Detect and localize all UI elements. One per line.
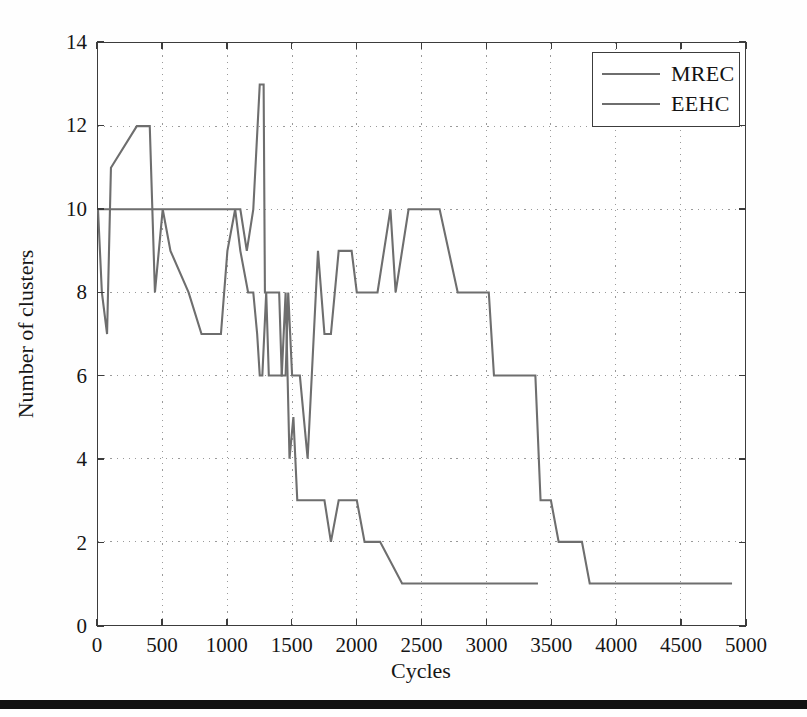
y-tick-label-6: 6 [39,365,87,386]
x-tick-label-1000: 1000 [206,635,248,656]
y-tick-label-0: 0 [39,616,87,637]
x-tick-label-3500: 3500 [530,635,572,656]
y-tick-label-12: 12 [39,115,87,136]
legend: MREC EEHC [592,52,740,127]
legend-label-eehc: EEHC [671,91,730,117]
legend-label-mrec: MREC [671,61,735,87]
x-axis-title: Cycles [391,658,451,684]
y-tick-label-4: 4 [39,449,87,470]
x-tick-label-5000: 5000 [725,635,767,656]
legend-line-swatch-eehc [602,103,660,105]
scan-artifact-bar [0,700,807,709]
y-tick-label-2: 2 [39,532,87,553]
y-axis-title: Number of clusters [13,250,39,419]
legend-line-swatch-mrec [602,73,660,75]
x-tick-label-4500: 4500 [660,635,702,656]
y-tick-label-10: 10 [39,198,87,219]
x-tick-label-1500: 1500 [271,635,313,656]
x-tick-label-0: 0 [92,635,103,656]
legend-item-eehc: EEHC [593,89,739,119]
y-tick-label-14: 14 [39,32,87,53]
figure-canvas: 02468101214 0500100015002000250030003500… [0,0,807,717]
x-tick-label-3000: 3000 [465,635,507,656]
legend-item-mrec: MREC [593,59,739,89]
x-tick-label-4000: 4000 [595,635,637,656]
y-tick-label-8: 8 [39,282,87,303]
x-tick-label-500: 500 [146,635,178,656]
x-tick-label-2500: 2500 [401,635,443,656]
x-tick-label-2000: 2000 [336,635,378,656]
